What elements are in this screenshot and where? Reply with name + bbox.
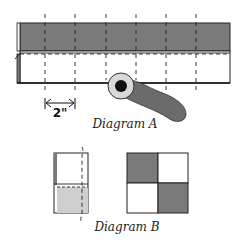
patch-bottom-right xyxy=(158,183,188,213)
strip-unit-light-gray xyxy=(57,187,88,213)
patch-top-left xyxy=(127,153,158,183)
strip-unit xyxy=(54,147,88,221)
dimension-label: 2" xyxy=(53,106,68,120)
diagram-a-caption: Diagram A xyxy=(91,117,157,131)
left-edge-top xyxy=(17,23,20,51)
strip-unit-dark-edge xyxy=(54,153,57,185)
dark-fabric-strip xyxy=(20,23,230,51)
diagram-a: 2" Diagram A xyxy=(15,14,230,131)
diagram-b-caption: Diagram B xyxy=(93,220,159,234)
diagram-canvas: 2" Diagram A Diagram B xyxy=(0,0,238,243)
cutter-hub xyxy=(115,80,127,92)
diagram-b: Diagram B xyxy=(54,147,188,234)
patch-top-right xyxy=(158,153,188,183)
four-patch-block xyxy=(127,153,188,213)
patch-bottom-left xyxy=(127,183,158,213)
left-edge-bottom xyxy=(17,54,20,83)
